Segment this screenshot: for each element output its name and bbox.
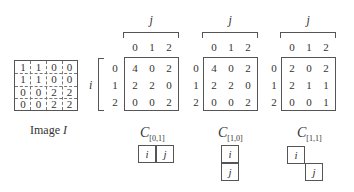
matrix-label-subscript: [1,1]: [306, 134, 321, 143]
pixel-value: 0: [46, 61, 62, 74]
matrix-value: 0: [302, 96, 316, 108]
pixel-value: 0: [46, 73, 62, 86]
matrix-value: 0: [145, 96, 159, 108]
matrix-value: 2: [128, 79, 142, 91]
matrix-value: 2: [145, 79, 159, 91]
row-index: 1: [189, 79, 203, 91]
col-axis-bracket: [280, 32, 336, 38]
matrix-label: C[1,0]: [218, 125, 243, 143]
matrix-value: 0: [224, 96, 238, 108]
col-index: 0: [128, 41, 142, 53]
row-index: 2: [189, 96, 203, 108]
matrix-value: 4: [207, 62, 221, 74]
row-index: 0: [189, 62, 203, 74]
pixel-value: 0: [15, 98, 31, 111]
pixel-value: 0: [62, 61, 78, 74]
col-index: 2: [162, 41, 176, 53]
row-index: 0: [108, 62, 122, 74]
offset-cell-j: j: [305, 163, 323, 181]
image-label-prefix: Image: [30, 123, 63, 137]
matrix-value: 2: [224, 79, 238, 91]
pixel-value: 2: [46, 86, 62, 99]
row-index: 1: [108, 79, 122, 91]
row-index: 0: [267, 62, 281, 74]
col-index: 1: [145, 41, 159, 53]
row-index: 1: [267, 79, 281, 91]
matrix-label: C[1,1]: [297, 125, 322, 143]
offset-cell-i: i: [221, 145, 239, 163]
matrix-value: 1: [319, 79, 333, 91]
matrix-value: 0: [241, 79, 255, 91]
row-axis-label: i: [89, 78, 92, 93]
col-axis-bracket: [202, 32, 258, 38]
matrix-value: 2: [207, 79, 221, 91]
col-index: 0: [285, 41, 299, 53]
pixel-value: 1: [31, 61, 47, 74]
offset-cell-j: j: [221, 163, 239, 181]
offset-cell-j: j: [156, 145, 174, 163]
matrix-value: 2: [319, 62, 333, 74]
col-index: 2: [241, 41, 255, 53]
row-index: 2: [267, 96, 281, 108]
col-axis-bracket: [123, 32, 179, 38]
image-label: Image I: [30, 123, 67, 138]
matrix-value: 0: [162, 79, 176, 91]
row-axis-bracket: [98, 58, 104, 111]
image-matrix: 1100110000220022: [14, 60, 78, 111]
matrix-value: 4: [128, 62, 142, 74]
col-index: 2: [319, 41, 333, 53]
matrix-value: 2: [241, 96, 255, 108]
matrix-value: 0: [224, 62, 238, 74]
matrix-value: 1: [302, 79, 316, 91]
matrix-value: 2: [162, 62, 176, 74]
col-index: 1: [224, 41, 238, 53]
pixel-value: 1: [31, 73, 47, 86]
matrix-label-subscript: [1,0]: [227, 134, 242, 143]
col-index: 1: [302, 41, 316, 53]
matrix-value: 0: [128, 96, 142, 108]
row-index: 2: [108, 96, 122, 108]
matrix-value: 0: [302, 62, 316, 74]
matrix-label-subscript: [0,1]: [149, 134, 164, 143]
offset-cell-i: i: [138, 145, 156, 163]
col-axis-label: j: [307, 13, 310, 28]
pixel-value: 0: [31, 86, 47, 99]
pixel-value: 0: [31, 98, 47, 111]
col-axis-label: j: [229, 13, 232, 28]
matrix-value: 2: [162, 96, 176, 108]
pixel-value: 1: [15, 61, 31, 74]
matrix-value: 2: [241, 62, 255, 74]
col-axis-label: j: [150, 13, 153, 28]
matrix-value: 0: [207, 96, 221, 108]
pixel-value: 2: [62, 98, 78, 111]
col-index: 0: [207, 41, 221, 53]
image-label-var: I: [63, 123, 67, 137]
matrix-value: 1: [319, 96, 333, 108]
matrix-value: 2: [285, 62, 299, 74]
matrix-value: 2: [285, 79, 299, 91]
pixel-value: 1: [15, 73, 31, 86]
matrix-value: 0: [145, 62, 159, 74]
matrix-value: 0: [285, 96, 299, 108]
pixel-value: 0: [15, 86, 31, 99]
offset-cell-i: i: [287, 146, 305, 164]
pixel-value: 0: [62, 73, 78, 86]
matrix-label: C[0,1]: [140, 125, 165, 143]
pixel-value: 2: [46, 98, 62, 111]
pixel-value: 2: [62, 86, 78, 99]
